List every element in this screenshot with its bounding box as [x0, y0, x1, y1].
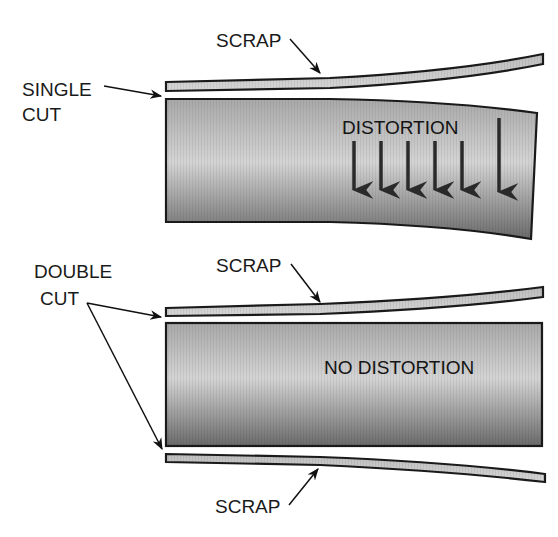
- double-cut-section: DOUBLE CUT SCRAP NO DISTORTION SCRAP: [34, 255, 545, 517]
- single-cut-label-line1: SINGLE: [22, 79, 92, 100]
- double-cut-pointer-arrow-lower: [87, 303, 162, 449]
- double-cut-label-line2: CUT: [40, 288, 79, 309]
- scrap-label-lower: SCRAP: [215, 496, 280, 517]
- single-cut-pointer-arrow: [104, 86, 161, 96]
- double-cut-label-line1: DOUBLE: [34, 261, 112, 282]
- scrap-pointer-arrow-top: [290, 39, 320, 73]
- double-cut-pointer-arrow-upper: [87, 303, 161, 317]
- scrap-label-upper: SCRAP: [216, 255, 281, 276]
- single-cut-label-line2: CUT: [22, 104, 61, 125]
- cutting-distortion-diagram: SINGLE CUT SCRAP DISTORTION DOUBLE CUT: [0, 0, 558, 537]
- no-distortion-label: NO DISTORTION: [324, 357, 474, 378]
- single-cut-section: SINGLE CUT SCRAP DISTORTION: [22, 30, 543, 239]
- scrap-pointer-arrow-lower: [289, 469, 318, 505]
- scrap-pointer-arrow-upper: [291, 264, 320, 302]
- distortion-label: DISTORTION: [342, 117, 458, 138]
- scrap-label-top: SCRAP: [216, 30, 281, 51]
